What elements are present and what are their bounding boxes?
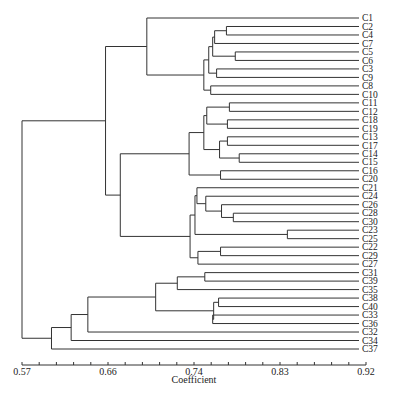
dendrogram-chart: C1C2C4C7C5C6C3C9C8C10C11C12C18C19C13C17C…: [0, 0, 402, 394]
leaf-label: C37: [362, 344, 378, 354]
x-tick-label: 0.57: [13, 366, 31, 377]
x-tick-label: 0.83: [271, 366, 289, 377]
x-tick-label: 0.66: [99, 366, 117, 377]
x-axis: [22, 362, 366, 365]
x-axis-title: Coefficient: [172, 374, 217, 385]
x-tick-label: 0.92: [357, 366, 375, 377]
leaf-labels: C1C2C4C7C5C6C3C9C8C10C11C12C18C19C13C17C…: [362, 13, 378, 354]
dendrogram-branches: [22, 18, 359, 349]
